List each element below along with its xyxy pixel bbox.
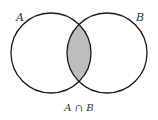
- venn-diagram: A B A ∩ B: [0, 0, 158, 120]
- set-a-label: A: [15, 11, 24, 24]
- set-b-label: B: [135, 11, 144, 24]
- intersection-caption: A ∩ B: [63, 102, 93, 113]
